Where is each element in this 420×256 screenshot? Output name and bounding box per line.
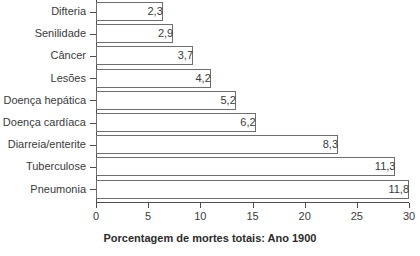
category-label-wrap: Difteria <box>0 2 86 21</box>
bar-row: Doença hepática5,2 <box>0 91 420 110</box>
y-axis-tick <box>90 189 96 190</box>
x-axis-title: Porcentagem de mortes totais: Ano 1900 <box>0 232 420 244</box>
category-label-wrap: Pneumonia <box>0 180 86 199</box>
y-axis-tick <box>90 123 96 124</box>
x-axis-tick <box>357 203 358 208</box>
bar-row: Pneumonia11,8 <box>0 180 420 199</box>
category-label-wrap: Senilidade <box>0 24 86 43</box>
bar-row: Doença cardíaca6,2 <box>0 113 420 132</box>
category-label: Pneumonia <box>30 180 86 199</box>
x-axis-tick-label: 30 <box>392 210 420 222</box>
y-axis-tick <box>90 100 96 101</box>
category-label: Lesões <box>51 69 86 88</box>
category-label: Senilidade <box>35 24 86 43</box>
x-axis-tick <box>409 203 410 208</box>
category-label: Doença cardíaca <box>3 113 86 132</box>
y-axis-tick <box>90 34 96 35</box>
x-axis-tick-label: 20 <box>288 210 322 222</box>
bar-value-label: 4,2 <box>96 69 216 88</box>
bar-row: Câncer3,7 <box>0 46 420 65</box>
bar-value-label: 8,3 <box>96 135 343 154</box>
bar-value-label: 5,2 <box>96 91 241 110</box>
bar-value-label: 2,9 <box>96 24 178 43</box>
y-axis-tick <box>90 167 96 168</box>
bar-chart: Difteria2,3Senilidade2,9Câncer3,7Lesões4… <box>0 0 420 256</box>
y-axis-tick <box>90 145 96 146</box>
category-label-wrap: Diarreia/enterite <box>0 135 86 154</box>
bar-value-label: 3,7 <box>96 46 198 65</box>
bar-row: Tuberculose11,3 <box>0 157 420 176</box>
category-label: Câncer <box>51 46 86 65</box>
category-label: Diarreia/enterite <box>8 135 86 154</box>
category-label-wrap: Tuberculose <box>0 157 86 176</box>
bar-row: Diarreia/enterite8,3 <box>0 135 420 154</box>
bar-row: Lesões4,2 <box>0 69 420 88</box>
x-axis-tick-label: 5 <box>131 210 165 222</box>
bar-value-label: 2,3 <box>96 2 168 21</box>
bar-row: Senilidade2,9 <box>0 24 420 43</box>
category-label: Tuberculose <box>26 157 86 176</box>
category-label: Doença hepática <box>3 91 86 110</box>
x-axis-tick-label: 0 <box>79 210 113 222</box>
x-axis-tick <box>253 203 254 208</box>
bar-row: Difteria2,3 <box>0 2 420 21</box>
bar-value-label: 11,8 <box>96 180 414 199</box>
category-label-wrap: Doença hepática <box>0 91 86 110</box>
x-axis-tick-label: 10 <box>183 210 217 222</box>
x-axis-tick-label: 15 <box>236 210 270 222</box>
y-axis-tick <box>90 78 96 79</box>
y-axis-tick <box>90 12 96 13</box>
category-label-wrap: Doença cardíaca <box>0 113 86 132</box>
category-label-wrap: Lesões <box>0 69 86 88</box>
x-axis-tick <box>96 203 97 208</box>
bar-value-label: 11,3 <box>96 157 400 176</box>
category-label: Difteria <box>51 2 86 21</box>
bar-value-label: 6,2 <box>96 113 261 132</box>
x-axis-tick <box>305 203 306 208</box>
category-label-wrap: Câncer <box>0 46 86 65</box>
x-axis-tick <box>200 203 201 208</box>
x-axis-tick-label: 25 <box>340 210 374 222</box>
y-axis-tick <box>90 56 96 57</box>
x-axis-tick <box>148 203 149 208</box>
